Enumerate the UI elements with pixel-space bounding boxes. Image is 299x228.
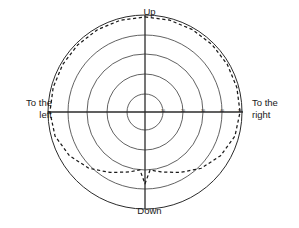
direction-label-down: Down bbox=[0, 205, 299, 217]
tick-label-10: 10 bbox=[161, 109, 165, 113]
tick-label-40: 40 bbox=[220, 109, 224, 113]
direction-label-right: To the right bbox=[252, 97, 298, 120]
tick-label-20: 20 bbox=[181, 109, 185, 113]
polar-chart: 10 20 30 40 50 Up Down To the left To th… bbox=[0, 0, 299, 228]
tick-label-30: 30 bbox=[201, 109, 205, 113]
tick-label-50: 50 bbox=[238, 109, 242, 113]
direction-label-left: To the left bbox=[4, 97, 52, 120]
direction-label-up: Up bbox=[0, 6, 299, 18]
